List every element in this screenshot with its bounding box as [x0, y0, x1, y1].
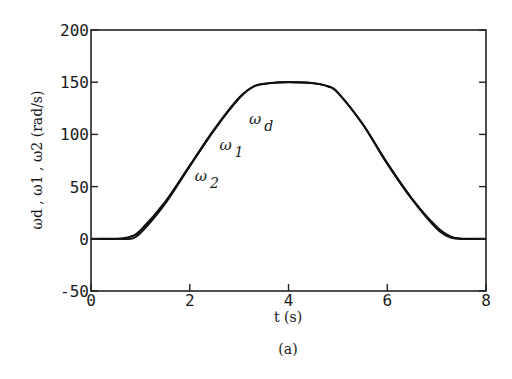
y-tick-label: 200 — [60, 21, 89, 40]
figure-caption: (a) — [278, 341, 297, 357]
curve-2 — [91, 82, 486, 239]
curve-annotation: ω1 — [219, 136, 243, 160]
y-tick-label: -50 — [60, 282, 89, 301]
curve-annotation: ωd — [249, 110, 273, 134]
y-tick-label: 150 — [60, 73, 89, 92]
x-tick-label: 4 — [284, 291, 294, 310]
data-curves — [91, 82, 486, 239]
y-tick-label: 0 — [79, 230, 89, 249]
line-chart: -5005010015020002468 ωdω1ω2 t (s) (a) ωd… — [0, 0, 512, 379]
plot-border — [91, 30, 486, 291]
chart-figure: -5005010015020002468 ωdω1ω2 t (s) (a) ωd… — [0, 0, 512, 379]
x-tick-label: 6 — [382, 291, 392, 310]
y-tick-label: 50 — [70, 178, 89, 197]
curve-annotations: ωdω1ω2 — [195, 110, 274, 191]
plot-frame — [91, 30, 486, 291]
x-tick-label: 8 — [481, 291, 491, 310]
x-tick-label: 0 — [86, 291, 96, 310]
y-axis-label: ωd , ω1 , ω2 (rad/s) — [29, 90, 45, 229]
y-tick-label: 100 — [60, 125, 89, 144]
x-tick-label: 2 — [185, 291, 195, 310]
x-axis-label: t (s) — [274, 309, 302, 325]
curve-annotation: ω2 — [195, 167, 219, 191]
axis-ticks: -5005010015020002468 — [60, 21, 491, 310]
